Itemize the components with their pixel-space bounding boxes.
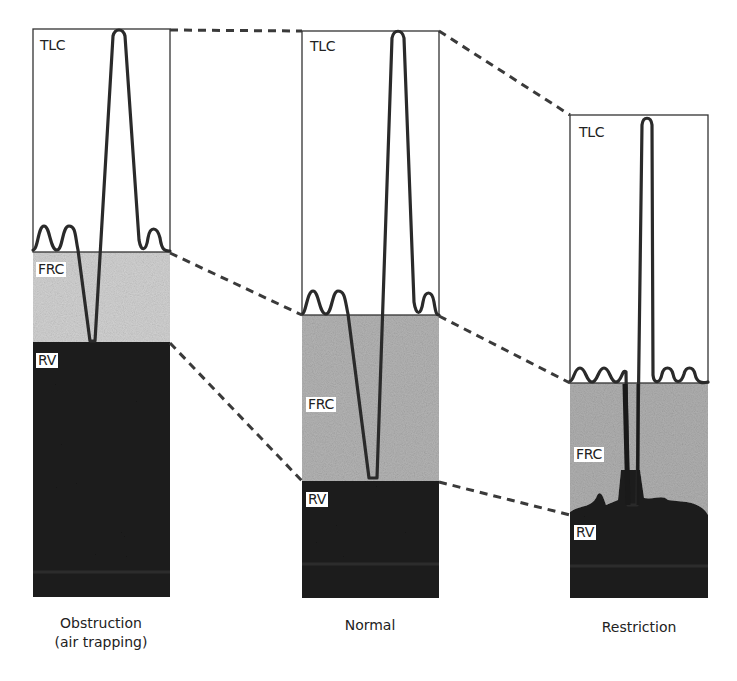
tlc-connector-left <box>170 30 302 31</box>
caption-line-1: Obstruction <box>11 614 191 633</box>
caption-line-1: Restriction <box>549 618 729 637</box>
tlc-connector-right <box>439 31 570 115</box>
rv-label-obstruction: RV <box>36 353 58 368</box>
tlc-box <box>302 31 439 315</box>
frc-connector-right <box>439 316 570 383</box>
frc-connector-left <box>170 253 302 315</box>
caption-line-2: (air trapping) <box>11 633 191 652</box>
panel-obstruction <box>33 29 170 597</box>
rv-region <box>33 342 170 597</box>
lung-volumes-diagram <box>0 0 737 681</box>
caption-restriction: Restriction <box>549 618 729 637</box>
caption-normal: Normal <box>280 616 460 635</box>
frc-label-obstruction: FRC <box>36 262 66 277</box>
panel-normal <box>302 31 439 598</box>
caption-obstruction: Obstruction (air trapping) <box>11 614 191 652</box>
tlc-label-restriction: TLC <box>579 124 604 140</box>
expiration-band <box>625 384 628 505</box>
rv-label-normal: RV <box>306 492 328 507</box>
tlc-label-normal: TLC <box>310 38 335 54</box>
caption-line-1: Normal <box>280 616 460 635</box>
frc-label-restriction: FRC <box>574 447 604 462</box>
frc-label-normal: FRC <box>306 397 336 412</box>
tlc-label-obstruction: TLC <box>40 37 65 53</box>
rv-connector-left <box>170 343 302 481</box>
rv-label-restriction: RV <box>574 525 596 540</box>
rv-connector-right <box>439 482 570 515</box>
